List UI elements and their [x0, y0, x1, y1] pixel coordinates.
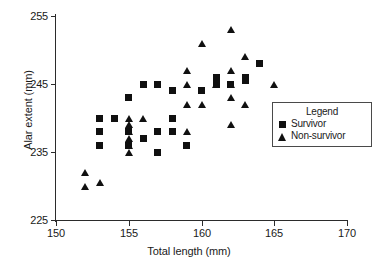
triangle-marker-icon [212, 81, 220, 88]
x-tick-label-150: 150 [36, 228, 76, 239]
triangle-marker-icon [183, 67, 191, 74]
square-marker-icon [154, 149, 161, 156]
x-tick-label-155: 155 [109, 228, 149, 239]
square-marker-icon [169, 87, 176, 94]
triangle-marker-icon [227, 81, 235, 88]
triangle-marker-icon [227, 26, 235, 33]
triangle-marker-icon [183, 101, 191, 108]
square-marker-icon [278, 120, 287, 129]
triangle-marker-icon [125, 149, 133, 156]
triangle-marker-icon [139, 115, 147, 122]
triangle-marker-icon [198, 40, 206, 47]
triangle-marker-icon [183, 128, 191, 135]
x-tick-155 [129, 221, 130, 226]
x-axis-title: Total length (mm) [0, 245, 378, 257]
triangle-marker-icon [81, 183, 89, 190]
scatter-plot-figure: . . . 255 245 235 225 150 155 160 165 17… [0, 0, 378, 266]
square-marker-icon [198, 87, 205, 94]
triangle-marker-icon [183, 81, 191, 88]
legend-box: Legend Survivor Non-survivor [272, 102, 372, 147]
triangle-marker-icon [227, 121, 235, 128]
square-marker-icon [96, 115, 103, 122]
square-marker-icon [169, 128, 176, 135]
x-tick-label-160: 160 [182, 228, 222, 239]
x-tick-160 [202, 221, 203, 226]
x-tick-165 [274, 221, 275, 226]
square-marker-icon [140, 81, 147, 88]
y-tick-255 [51, 16, 56, 17]
top-edge-artifact: . . . [118, 0, 238, 4]
y-tick-label-255: 255 [8, 11, 48, 22]
square-marker-icon [242, 77, 249, 84]
square-marker-icon [154, 128, 161, 135]
square-marker-icon [125, 94, 132, 101]
y-tick-label-225: 225 [8, 215, 48, 226]
square-marker-icon [96, 142, 103, 149]
legend-item-survivor[interactable]: Survivor [278, 118, 366, 130]
square-marker-icon [169, 115, 176, 122]
triangle-marker-icon [198, 101, 206, 108]
triangle-marker-icon [96, 179, 104, 186]
square-marker-icon [140, 135, 147, 142]
triangle-marker-icon [241, 53, 249, 60]
legend-title: Legend [278, 106, 366, 118]
y-axis-line [55, 14, 56, 222]
legend-item-non-survivor[interactable]: Non-survivor [278, 130, 366, 142]
square-marker-icon [256, 60, 263, 67]
legend-label-survivor: Survivor [291, 118, 326, 130]
y-tick-235 [51, 152, 56, 153]
square-marker-icon [111, 115, 118, 122]
square-marker-icon [96, 128, 103, 135]
triangle-marker-icon [241, 101, 249, 108]
x-tick-150 [56, 221, 57, 226]
x-tick-label-165: 165 [254, 228, 294, 239]
x-tick-label-170: 170 [327, 228, 367, 239]
triangle-marker-icon [227, 94, 235, 101]
x-tick-170 [347, 221, 348, 226]
square-marker-icon [154, 81, 161, 88]
triangle-marker-icon [270, 81, 278, 88]
square-marker-icon [183, 142, 190, 149]
triangle-marker-icon [81, 169, 89, 176]
legend-label-non-survivor: Non-survivor [291, 130, 345, 142]
triangle-marker-icon [278, 132, 287, 141]
triangle-marker-icon [227, 67, 235, 74]
y-tick-245 [51, 84, 56, 85]
y-axis-title: Alar extent (mm) [22, 30, 34, 190]
